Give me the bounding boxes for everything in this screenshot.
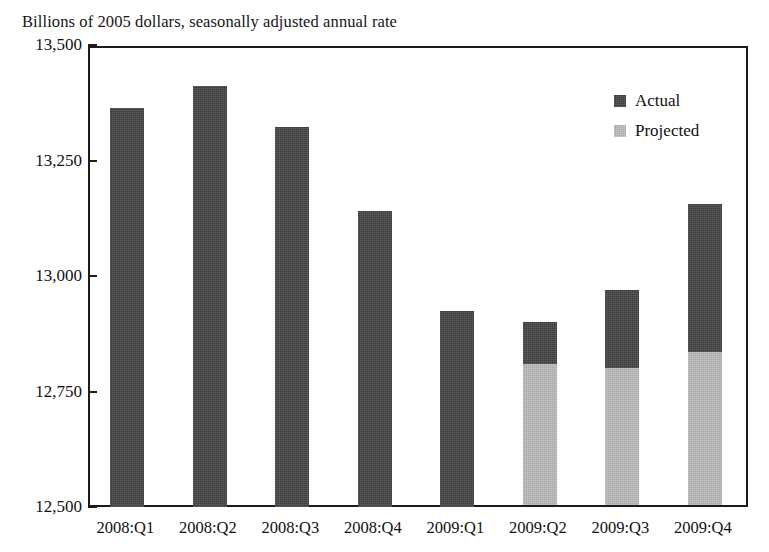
bar-segment-actual [193,86,227,507]
legend-swatch-actual [614,95,626,107]
x-axis-tick-label: 2009:Q4 [648,519,758,537]
y-axis-tick-label: 13,000 [2,267,82,284]
bar-segment-projected [523,364,557,505]
bar-2009-q4 [688,204,722,505]
y-axis-tick-label: 13,500 [2,36,82,53]
y-axis-tick-label: 12,500 [2,498,82,515]
bar-2009-q2 [523,322,557,505]
bar-segment-projected [605,368,639,505]
chart-legend: ActualProjected [614,86,744,146]
legend-item-label: Projected [635,122,699,140]
bar-2009-q3 [605,290,639,505]
bar-2008-q2 [193,86,227,505]
y-axis-tick-mark [88,275,97,277]
legend-item: Projected [614,116,744,146]
bar-segment-actual [358,211,392,507]
bar-segment-actual [110,108,144,507]
bar-2008-q1 [110,108,144,505]
bar-2008-q3 [275,127,309,505]
legend-swatch-projected [614,125,626,137]
bar-segment-actual [523,322,557,364]
y-axis-tick-mark [88,160,97,162]
legend-item-label: Actual [635,92,680,110]
y-axis: 13,50013,25013,00012,75012,500 [0,0,82,552]
bar-segment-projected [688,352,722,505]
bar-segment-actual [605,290,639,368]
gdp-bar-chart: Billions of 2005 dollars, seasonally adj… [0,0,769,552]
bar-segment-actual [688,204,722,352]
bar-segment-actual [275,127,309,507]
y-axis-tick-label: 12,750 [2,383,82,400]
legend-item: Actual [614,86,744,116]
y-axis-tick-mark [88,44,97,46]
y-axis-tick-mark [88,391,97,393]
y-axis-tick-label: 13,250 [2,152,82,169]
bar-2009-q1 [440,311,474,505]
bar-segment-actual [440,311,474,507]
y-axis-tick-mark [88,506,97,508]
bar-2008-q4 [358,211,392,505]
